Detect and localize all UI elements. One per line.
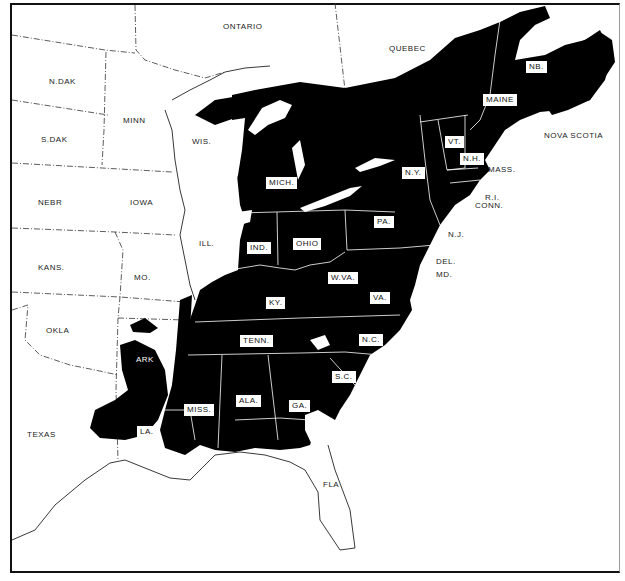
label-md: MD. [436, 271, 452, 279]
label-nh: N.H. [460, 153, 484, 165]
label-mich: MICH. [266, 177, 297, 189]
label-mass: MASS. [488, 166, 515, 174]
label-okla: OKLA [46, 327, 69, 335]
label-tenn: TENN. [240, 335, 273, 347]
label-n-dak: N.DAK [49, 78, 76, 86]
label-minn: MINN [123, 117, 145, 125]
label-maine: MAINE [483, 94, 517, 106]
label-ontario: ONTARIO [223, 23, 262, 31]
label-sc: S.C. [332, 371, 356, 383]
label-ill: ILL. [199, 240, 214, 248]
label-ala: ALA. [236, 395, 261, 407]
range-map [0, 0, 625, 581]
label-ky: KY. [266, 297, 285, 309]
label-vt: VT. [445, 136, 464, 148]
label-wva: W.VA. [328, 272, 358, 284]
label-va: VA. [370, 292, 390, 304]
label-iowa: IOWA [130, 199, 153, 207]
range-fill [90, 6, 615, 455]
label-nb: NB. [526, 61, 547, 73]
label-nebr: NEBR [38, 199, 62, 207]
label-ga: GA. [289, 400, 310, 412]
label-ark: ARK [136, 356, 154, 364]
label-ohio: OHIO [293, 238, 321, 250]
label-wis: WIS. [192, 138, 211, 146]
label-mo: MO. [134, 274, 151, 282]
label-nova-scotia: NOVA SCOTIA [544, 132, 603, 140]
label-conn: CONN. [475, 202, 503, 210]
label-nj: N.J. [448, 231, 464, 239]
label-fla: FLA [323, 481, 339, 489]
label-ny: N.Y. [402, 167, 425, 179]
label-pa: PA. [374, 216, 394, 228]
label-miss: MISS. [184, 404, 214, 416]
label-kans: KANS. [38, 264, 65, 272]
label-del: DEL. [436, 258, 456, 266]
label-nc: N.C. [359, 334, 383, 346]
label-s-dak: S.DAK [41, 136, 68, 144]
label-la: LA. [137, 426, 157, 438]
label-ind: IND. [247, 242, 271, 254]
label-texas: TEXAS [27, 431, 56, 439]
label-quebec: QUEBEC [389, 45, 426, 53]
